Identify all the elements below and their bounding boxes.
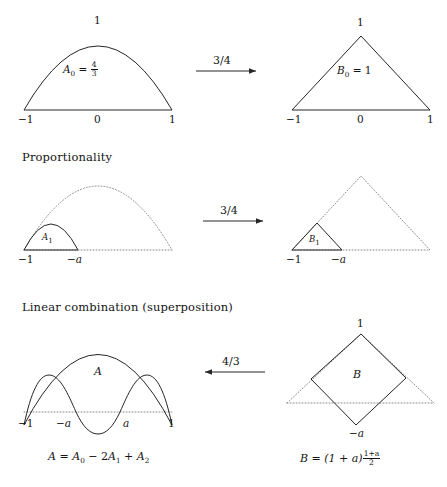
axis-tick-row1-right-zero: 0 (357, 113, 364, 125)
area-label-b: B (353, 368, 361, 381)
equation-b-fraction: 1+a2 (363, 450, 381, 467)
axis-tick-row1-left-zero: 0 (94, 113, 101, 125)
equation-a-term2: A (108, 450, 116, 463)
equation-a-term3-sub: 2 (145, 456, 150, 465)
parabola-curve-a0 (24, 46, 172, 110)
equals-sign-b0: = (353, 64, 362, 76)
equation-a-op2: + (124, 450, 133, 463)
area-sub-a0: 0 (71, 69, 76, 78)
area-value-b0: 1 (365, 64, 372, 76)
equation-b-lhs: B (300, 452, 308, 465)
area-label-a1: A1 (42, 232, 53, 245)
axis-tick-row3-pos1: 1 (168, 417, 175, 429)
axis-tick-row1-left-neg1: −1 (18, 113, 33, 125)
diamond-bottom-label: −a (349, 427, 364, 439)
axis-tick-row3-a: a (123, 417, 129, 429)
area-sub-b1: 1 (315, 238, 320, 247)
peak-label-row1-right: 1 (357, 16, 364, 28)
equation-a: A = A0 − 2A1 + A2 (48, 450, 149, 465)
arrow-label-row2: 3/4 (220, 204, 238, 217)
area-sub-a1: 1 (48, 236, 53, 245)
equation-b: B = (1 + a)1+a2 (300, 450, 380, 467)
inner-wavy-curve-row3 (24, 375, 172, 434)
row2-arrow-group (203, 218, 263, 223)
equation-b-eq: = (312, 452, 321, 465)
section-heading-linear-combination: Linear combination (superposition) (22, 300, 233, 314)
equals-sign-a0: = (79, 63, 88, 75)
axis-tick-row2-right-nega: −a (331, 253, 346, 265)
arrow-head-row1 (249, 68, 256, 73)
equation-a-term1: A (72, 450, 80, 463)
area-sub-b0: 0 (345, 70, 350, 79)
equation-a-term1-sub: 0 (80, 456, 85, 465)
axis-tick-row1-right-pos1: 1 (427, 113, 434, 125)
axis-tick-row3-nega: −a (56, 417, 71, 429)
fraction-denominator-a0: 3 (91, 70, 98, 78)
diamond-top-label: 1 (357, 317, 364, 329)
arrow-head-row3 (205, 369, 212, 374)
arrow-label-row1: 3/4 (213, 54, 231, 67)
axis-tick-row1-right-neg1: −1 (286, 113, 301, 125)
equation-b-frac-den: 2 (363, 459, 381, 467)
row1-left-parabola-group (24, 46, 172, 110)
equation-a-eq: = (59, 450, 68, 463)
area-label-b0: B0 = 1 (337, 64, 371, 79)
axis-tick-row2-left-neg1: −1 (18, 253, 33, 265)
row3-arrow-group (205, 369, 265, 374)
axis-tick-row3-neg1: −1 (18, 417, 33, 429)
equation-a-coef2: 2 (101, 450, 108, 463)
area-label-a: A (94, 365, 102, 378)
fraction-4-over-3: 43 (91, 61, 98, 78)
equation-a-op1: − (88, 450, 97, 463)
equation-b-paren: (1 + a) (324, 452, 362, 465)
section-heading-proportionality: Proportionality (22, 150, 112, 164)
equation-a-lhs: A (48, 450, 56, 463)
equation-a-term2-sub: 1 (116, 456, 121, 465)
peak-label-row1-left: 1 (94, 14, 101, 26)
axis-tick-row2-left-nega: −a (67, 253, 82, 265)
area-label-a0: A0 = 43 (63, 61, 98, 78)
area-symbol-b0: B (337, 64, 345, 76)
area-symbol-a0: A (63, 63, 71, 75)
area-label-b1: B1 (309, 234, 320, 247)
axis-tick-row2-right-neg1: −1 (286, 253, 301, 265)
arrow-label-row3: 4/3 (222, 355, 240, 368)
equation-a-term3: A (137, 450, 145, 463)
arrow-head-row2 (256, 218, 263, 223)
row1-arrow-group (196, 68, 256, 73)
axis-tick-row1-left-pos1: 1 (169, 113, 176, 125)
